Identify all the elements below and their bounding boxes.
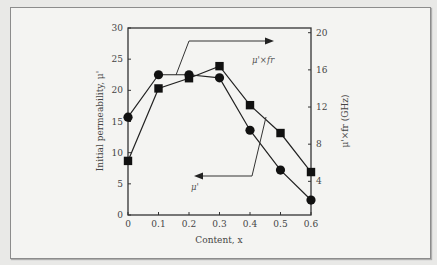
square-marker <box>215 62 223 70</box>
y2-tick-label: 4 <box>316 176 322 186</box>
circle-marker <box>306 195 315 204</box>
data-series <box>123 62 315 205</box>
x-tick-label: 0.1 <box>151 219 165 229</box>
square-marker <box>307 168 315 176</box>
x-tick-label: 0.5 <box>273 219 288 229</box>
y-axis-label: Initial permeability, μ' <box>95 71 105 171</box>
x-tick-label: 0.6 <box>304 219 319 229</box>
x-tick-label: 0.4 <box>243 219 258 229</box>
y-tick-label: 0 <box>117 210 123 220</box>
square-marker <box>154 84 162 92</box>
y-tick-label: 25 <box>112 54 124 64</box>
chart: 00.10.20.30.40.50.605101520253048121620 … <box>0 0 437 265</box>
y-tick-label: 30 <box>112 23 124 33</box>
annotation-mu-fr-label: μ'×fr <box>252 55 275 65</box>
y-tick-label: 20 <box>112 85 124 95</box>
y-tick-label: 10 <box>112 148 124 158</box>
y2-tick-label: 8 <box>316 139 322 149</box>
square-marker <box>124 157 132 165</box>
annotation-pointer-left <box>202 117 266 176</box>
x-axis-label: Content, x <box>195 235 242 245</box>
circle-marker <box>276 166 285 175</box>
arrow-right-icon <box>265 38 274 45</box>
y2-tick-label: 16 <box>316 65 328 75</box>
plot-axes: 00.10.20.30.40.50.605101520253048121620 <box>112 23 328 229</box>
y2-tick-label: 20 <box>316 28 328 38</box>
y2-tick-label: 12 <box>316 102 327 112</box>
y-tick-label: 5 <box>117 179 123 189</box>
y-tick-label: 15 <box>112 117 124 127</box>
x-tick-label: 0 <box>125 219 131 229</box>
circle-marker <box>215 73 224 82</box>
square-marker <box>246 101 254 109</box>
circle-marker <box>245 126 254 135</box>
x-tick-label: 0.2 <box>182 219 196 229</box>
arrow-left-icon <box>194 173 203 180</box>
circle-marker <box>123 113 132 122</box>
square-marker <box>185 74 193 82</box>
annotation-mu-label: μ' <box>191 182 199 192</box>
x-tick-label: 0.3 <box>212 219 227 229</box>
plot-frame <box>128 28 311 215</box>
circle-marker <box>154 70 163 79</box>
y2-axis-label: μ'×fr (GHz) <box>340 94 350 147</box>
square-marker <box>276 129 284 137</box>
